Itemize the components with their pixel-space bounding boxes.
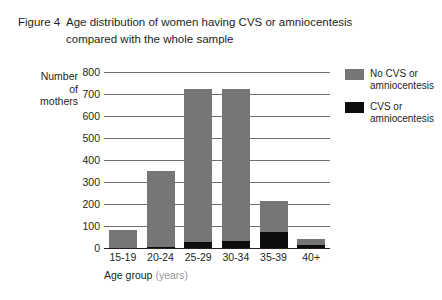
y-tick-label-200: 200 [66,199,100,210]
y-tick-label-400: 400 [66,155,100,166]
bar-segment-cvs-35-39 [260,232,288,249]
bar-series-group [104,72,330,248]
plot-area [104,72,330,248]
legend-label-1-line-2: amniocentesis [370,80,434,92]
chart-container: Number of mothers 0100200300400500600700… [0,62,442,300]
legend-item-1: No CVS oramniocentesis [345,68,441,91]
legend-swatch-no-cvs [345,69,364,80]
figure-caption-line-2: compared with the whole sample [66,31,426,48]
bar-segment-cvs-40+ [297,245,325,248]
y-tick-label-300: 300 [66,177,100,188]
x-axis-title-main: Age group [104,269,152,281]
figure-header: Figure 4 Age distribution of women havin… [0,14,442,47]
y-axis-tick-labels: 0100200300400500600700800 [62,72,100,248]
bar-group-25-29 [184,89,212,249]
bar-group-15-19 [109,230,137,248]
axis-baseline [104,248,330,249]
bar-group-30-34 [222,89,250,248]
bar-group-35-39 [260,201,288,248]
bar-group-40+ [297,239,325,248]
y-tick-label-700: 700 [66,89,100,100]
legend-item-2: CVS oramniocentesis [345,101,441,124]
x-axis-tick-labels: 15-1920-2425-2930-3435-3940+ [104,251,330,265]
legend-swatch-cvs [345,102,364,113]
legend-label-1-line-1: No CVS or [370,68,434,80]
bar-segment-no-cvs-20-24 [147,171,175,247]
figure-caption-line-1: Age distribution of women having CVS or … [66,14,426,31]
y-tick-label-500: 500 [66,133,100,144]
bar-segment-no-cvs-25-29 [184,89,212,242]
x-axis-title-units: (years) [155,269,188,281]
bar-segment-no-cvs-15-19 [109,230,137,248]
chart-legend: No CVS oramniocentesisCVS oramniocentesi… [345,68,441,134]
bar-segment-cvs-30-34 [222,241,250,248]
x-axis-title: Age group (years) [104,269,188,282]
bar-segment-no-cvs-35-39 [260,201,288,232]
bar-segment-no-cvs-30-34 [222,89,250,241]
y-tick-label-100: 100 [66,221,100,232]
legend-label-2: CVS oramniocentesis [370,101,434,124]
figure-number-label: Figure 4 [0,14,66,30]
legend-label-1: No CVS oramniocentesis [370,68,434,91]
y-tick-label-0: 0 [66,243,100,254]
x-tick-label-40+: 40+ [288,251,334,263]
bar-segment-cvs-25-29 [184,242,212,248]
bar-group-20-24 [147,171,175,248]
y-tick-label-600: 600 [66,111,100,122]
figure-caption: Age distribution of women having CVS or … [66,14,442,47]
y-tick-label-800: 800 [66,67,100,78]
bar-segment-cvs-20-24 [147,247,175,248]
legend-label-2-line-1: CVS or [370,101,434,113]
legend-label-2-line-2: amniocentesis [370,113,434,125]
